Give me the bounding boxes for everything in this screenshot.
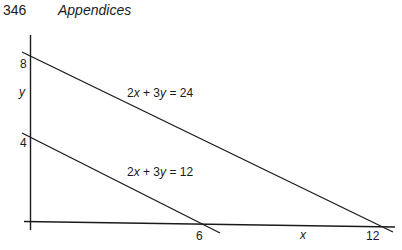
y-axis-label: y <box>19 86 25 98</box>
x-tick-6: 6 <box>196 230 203 242</box>
y-tick-8: 8 <box>20 58 27 70</box>
eq12-plus: + 3 <box>140 165 160 179</box>
x-axis-label: x <box>300 229 306 241</box>
eq24-coef-a: 2 <box>127 86 134 100</box>
line-2x-3y-24 <box>22 52 393 232</box>
x-axis-label-text: x <box>300 228 306 242</box>
eq24-rhs: = 24 <box>166 86 193 100</box>
eq24-plus: + 3 <box>140 86 160 100</box>
x-tick-12: 12 <box>366 230 379 242</box>
equation-label-12: 2x + 3y = 12 <box>127 166 193 178</box>
eq12-rhs: = 12 <box>166 165 193 179</box>
y-axis-label-text: y <box>19 85 25 99</box>
constraint-diagram <box>0 0 402 250</box>
equation-label-24: 2x + 3y = 24 <box>127 87 193 99</box>
line-2x-3y-12 <box>22 133 220 233</box>
x-axis <box>24 222 395 228</box>
y-tick-4: 4 <box>20 137 27 149</box>
eq12-coef-a: 2 <box>127 165 134 179</box>
